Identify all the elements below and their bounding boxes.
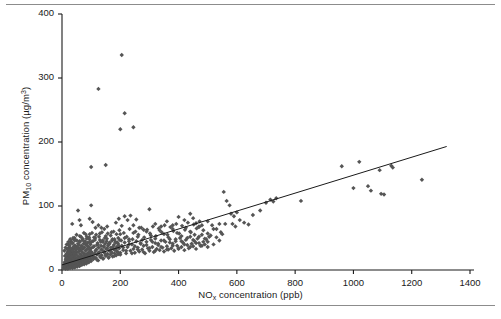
- data-point: [93, 226, 97, 230]
- data-point: [114, 232, 118, 236]
- data-point: [127, 227, 131, 231]
- data-point: [96, 87, 100, 91]
- data-point: [223, 222, 227, 226]
- data-point: [232, 214, 236, 218]
- data-point: [230, 222, 234, 226]
- data-point: [118, 232, 122, 236]
- data-point: [217, 238, 221, 242]
- data-point: [222, 190, 226, 194]
- data-point: [89, 203, 93, 207]
- data-point: [369, 188, 373, 192]
- data-point: [147, 207, 151, 211]
- figure-container: 0100200300400 0200400600800100012001400 …: [0, 0, 501, 319]
- data-point: [118, 127, 122, 131]
- data-point: [201, 228, 205, 232]
- data-point: [246, 222, 250, 226]
- x-axis-title-suffix: concentration (ppb): [216, 289, 303, 300]
- x-axis-tick-label: 1400: [450, 277, 490, 288]
- x-axis-tick-label: 400: [159, 277, 199, 288]
- data-point: [217, 222, 221, 226]
- data-point: [233, 224, 237, 228]
- data-point: [125, 218, 129, 222]
- data-point: [104, 163, 108, 167]
- data-point: [366, 184, 370, 188]
- data-point: [340, 164, 344, 168]
- data-point: [182, 218, 186, 222]
- data-point: [96, 223, 100, 227]
- data-point: [357, 160, 361, 164]
- x-axis-tick-label: 600: [217, 277, 257, 288]
- data-points-group: [61, 53, 424, 271]
- data-point: [117, 217, 121, 221]
- data-point: [238, 218, 242, 222]
- data-point: [211, 242, 215, 246]
- x-axis-title: NOx concentration (ppb): [0, 289, 501, 301]
- data-point: [124, 249, 128, 253]
- data-point: [351, 186, 355, 190]
- data-point: [299, 199, 303, 203]
- data-point: [90, 220, 94, 224]
- data-point: [122, 111, 126, 115]
- data-point: [114, 220, 118, 224]
- data-point: [194, 247, 198, 251]
- data-point: [122, 214, 126, 218]
- data-point: [128, 213, 132, 217]
- data-point: [174, 222, 178, 226]
- data-point: [117, 228, 121, 232]
- x-axis-tick-label: 1000: [333, 277, 373, 288]
- data-point: [162, 223, 166, 227]
- scatter-plot: [0, 0, 501, 319]
- data-point: [134, 217, 138, 221]
- data-point: [211, 227, 215, 231]
- data-point: [186, 220, 190, 224]
- data-point: [258, 208, 262, 212]
- data-point: [224, 199, 228, 203]
- data-point: [120, 53, 124, 57]
- data-point: [214, 235, 218, 239]
- data-point: [89, 165, 93, 169]
- x-axis-tick-label: 1200: [392, 277, 432, 288]
- data-point: [79, 223, 83, 227]
- trend-line: [62, 146, 447, 264]
- data-point: [130, 237, 134, 241]
- y-axis-title-superscript: 3: [20, 90, 27, 94]
- data-point: [227, 203, 231, 207]
- y-axis-title-mid: concentration (µg/m: [20, 94, 31, 183]
- data-point: [120, 224, 124, 228]
- data-point: [242, 220, 246, 224]
- data-point: [206, 245, 210, 249]
- x-axis-tick-label: 800: [275, 277, 315, 288]
- data-point: [105, 224, 109, 228]
- data-point: [77, 218, 81, 222]
- x-axis-title-prefix: NO: [198, 289, 212, 300]
- data-point: [172, 249, 176, 253]
- y-axis-tick-label: 0: [20, 263, 54, 274]
- data-point: [131, 223, 135, 227]
- data-point: [188, 211, 192, 215]
- data-point: [76, 208, 80, 212]
- data-point: [165, 219, 169, 223]
- data-point: [382, 192, 386, 196]
- trendline-group: [62, 146, 447, 264]
- data-point: [182, 248, 186, 252]
- data-point: [122, 240, 126, 244]
- data-point: [377, 168, 381, 172]
- data-point: [420, 178, 424, 182]
- x-axis-tick-label: 0: [42, 277, 82, 288]
- data-point: [192, 233, 196, 237]
- y-axis-title-suffix: ): [20, 87, 31, 90]
- data-point: [70, 222, 74, 226]
- x-axis-tick-label: 200: [100, 277, 140, 288]
- y-axis-title-prefix: PM: [20, 191, 31, 205]
- y-axis-title-subscript: 10: [25, 183, 32, 191]
- y-axis-title: PM10 concentration (µg/m3): [20, 56, 32, 236]
- data-point: [210, 223, 214, 227]
- data-point: [131, 125, 135, 129]
- data-point: [122, 231, 126, 235]
- data-point: [191, 216, 195, 220]
- data-point: [176, 215, 180, 219]
- data-point: [87, 217, 91, 221]
- data-point: [251, 213, 255, 217]
- y-axis-tick-label: 400: [20, 7, 54, 18]
